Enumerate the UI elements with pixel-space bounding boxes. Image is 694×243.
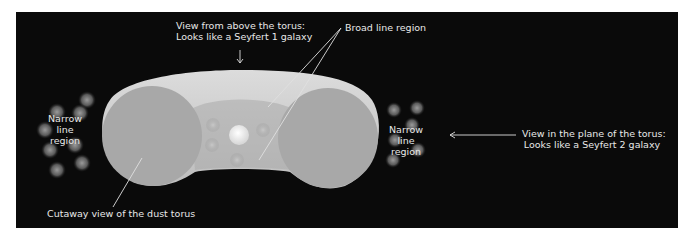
right-cross-section [278, 88, 378, 188]
label-view-from-above: View from above the torus: Looks like a … [176, 20, 304, 42]
label-view-in-plane: View in the plane of the torus: Looks li… [522, 128, 662, 150]
label-narrow-line-region-right: Narrow line region [381, 124, 431, 157]
left-cross-section [102, 86, 202, 186]
label-cutaway-view: Cutaway view of the dust torus [47, 208, 195, 219]
label-narrow-line-region-left: Narrow line region [40, 113, 90, 146]
torus-illustration [0, 0, 694, 243]
label-broad-line-region: Broad line region [345, 22, 426, 33]
central-engine [229, 125, 249, 145]
